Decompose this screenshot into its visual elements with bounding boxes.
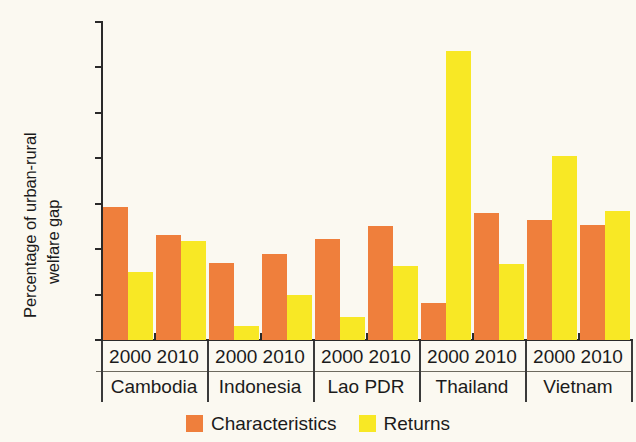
x-axis-country-label: Cambodia xyxy=(101,373,207,400)
bar-group xyxy=(101,22,207,340)
x-axis-year-labels: 2000 2010 xyxy=(313,344,419,369)
bar-returns xyxy=(287,295,312,340)
bar-characteristics xyxy=(421,303,446,340)
bar-characteristics xyxy=(209,263,234,340)
x-axis-row-divider xyxy=(96,371,633,372)
x-axis-country-label: Indonesia xyxy=(207,373,313,400)
x-axis-tick-mark xyxy=(154,333,156,341)
bar-returns xyxy=(552,156,577,340)
legend-item: Characteristics xyxy=(186,414,337,433)
x-axis-group-separator xyxy=(207,341,209,402)
legend-color-swatch xyxy=(359,415,376,432)
x-axis-tick-mark xyxy=(578,333,580,341)
plot-area: 010203040506070 xyxy=(101,22,631,340)
legend-color-swatch xyxy=(186,415,203,432)
bar-returns xyxy=(181,241,206,340)
x-axis-labels: 2000 2010Cambodia2000 2010Indonesia2000 … xyxy=(96,341,633,402)
legend-item: Returns xyxy=(359,414,451,433)
x-axis-tick-mark xyxy=(366,333,368,341)
bar-characteristics xyxy=(103,207,128,340)
bar-characteristics xyxy=(474,213,499,340)
bar-returns xyxy=(605,211,630,340)
bar-chart-figure: Percentage of urban-rural welfare gap 01… xyxy=(0,0,636,442)
y-axis-title-line-2: welfare gap xyxy=(44,200,63,284)
bar-returns xyxy=(393,266,418,340)
bar-characteristics xyxy=(262,254,287,340)
bar-returns xyxy=(128,272,153,340)
bar-characteristics xyxy=(527,220,552,340)
x-axis-year-labels: 2000 2010 xyxy=(207,344,313,369)
bar-returns xyxy=(446,51,471,340)
bar-returns xyxy=(499,264,524,340)
x-axis-group-separator xyxy=(419,341,421,402)
bar-characteristics xyxy=(368,226,393,340)
x-axis-year-labels: 2000 2010 xyxy=(101,344,207,369)
x-axis-tick-mark xyxy=(472,333,474,341)
x-axis-year-labels: 2000 2010 xyxy=(419,344,525,369)
x-axis-group-separator xyxy=(525,341,527,402)
bar-characteristics xyxy=(580,225,605,340)
bar-group xyxy=(419,22,525,340)
x-axis-tick-mark xyxy=(260,333,262,341)
bars-container xyxy=(101,22,631,340)
x-axis-country-label: Thailand xyxy=(419,373,525,400)
bar-group xyxy=(207,22,313,340)
x-axis-group-separator xyxy=(313,341,315,402)
bar-group xyxy=(525,22,631,340)
legend-label: Returns xyxy=(384,414,451,433)
chart-legend: CharacteristicsReturns xyxy=(0,414,636,433)
y-axis-title: Percentage of urban-rural welfare gap xyxy=(0,0,58,350)
bar-returns xyxy=(234,326,259,340)
x-axis-country-label: Vietnam xyxy=(525,373,631,400)
bar-returns xyxy=(340,317,365,340)
legend-label: Characteristics xyxy=(211,414,337,433)
y-axis-title-line-1: Percentage of urban-rural xyxy=(21,132,40,318)
x-axis-year-labels: 2000 2010 xyxy=(525,344,631,369)
x-axis-country-label: Lao PDR xyxy=(313,373,419,400)
bar-characteristics xyxy=(315,239,340,340)
bar-group xyxy=(313,22,419,340)
x-axis-group-separator xyxy=(631,341,633,402)
bar-characteristics xyxy=(156,235,181,340)
x-axis-group-separator xyxy=(101,341,103,402)
